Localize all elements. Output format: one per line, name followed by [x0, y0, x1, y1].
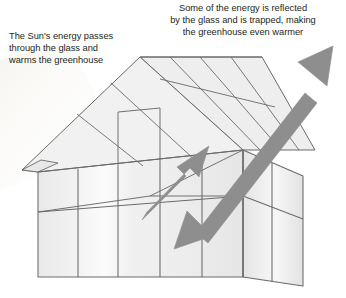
reflected-energy-caption-line-3: the greenhouse even warmer	[163, 27, 323, 39]
reflected-energy-caption-line-1: Some of the energy is reflected	[163, 3, 323, 15]
reflected-energy-caption: Some of the energy is reflected by the g…	[163, 3, 323, 39]
sun-energy-caption-line-3: warms the greenhouse	[9, 55, 113, 67]
sun-energy-caption: The Sun's energy passes through the glas…	[9, 31, 113, 67]
sun-energy-caption-line-2: through the glass and	[9, 43, 113, 55]
sun-energy-caption-line-1: The Sun's energy passes	[9, 31, 113, 43]
reflected-energy-caption-line-2: by the glass and is trapped, making	[163, 15, 323, 27]
greenhouse-effect-diagram: The Sun's energy passes through the glas…	[0, 0, 346, 298]
